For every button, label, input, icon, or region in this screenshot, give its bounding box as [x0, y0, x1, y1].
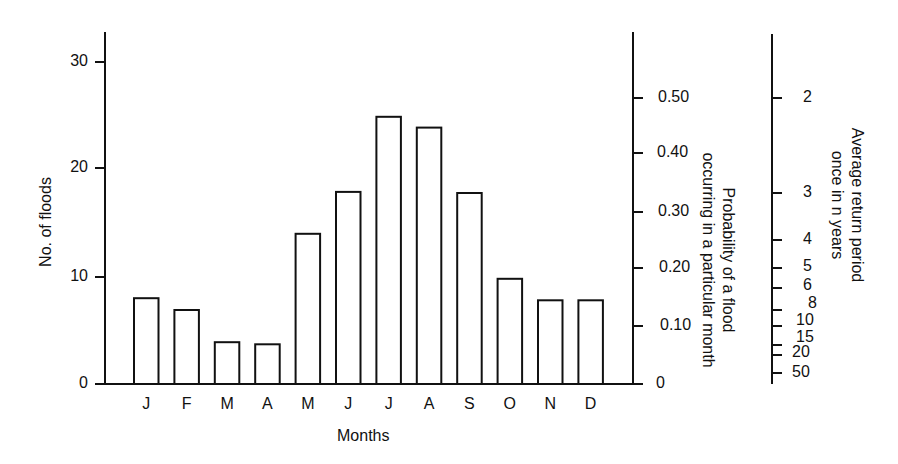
return-period-label-line2: once in n years — [827, 95, 847, 315]
bar-7 — [417, 128, 442, 384]
month-label: M — [293, 395, 323, 413]
prob-tick-0: 0 — [656, 374, 665, 392]
left-y-ticks — [95, 62, 105, 384]
month-label: M — [212, 395, 242, 413]
prob-tick-040: 0.40 — [657, 143, 688, 161]
bar-1 — [174, 310, 199, 384]
probability-label-line1: Probability of a flood — [718, 110, 738, 410]
y-tick-0: 0 — [48, 374, 88, 392]
bar-6 — [376, 117, 401, 384]
month-label: F — [172, 395, 202, 413]
rp-tick-8: 8 — [808, 295, 817, 311]
month-label: J — [333, 395, 363, 413]
rp-tick-10: 10 — [796, 312, 814, 328]
month-label: S — [454, 395, 484, 413]
bar-9 — [498, 279, 522, 384]
prob-tick-050: 0.50 — [658, 88, 689, 106]
rp-tick-5: 5 — [803, 258, 812, 274]
month-label: A — [252, 395, 282, 413]
probability-label-line2: occurring in a particular month — [698, 110, 718, 410]
bar-3 — [255, 344, 280, 384]
x-axis-label: Months — [337, 427, 389, 445]
y-axis-label: No. of floods — [37, 172, 55, 272]
probability-ticks — [633, 98, 643, 384]
month-label: D — [576, 395, 606, 413]
rp-tick-20: 20 — [792, 344, 810, 360]
return-period-axis-label: Average return period once in n years — [827, 95, 867, 315]
probability-axis-label: Probability of a flood occurring in a pa… — [698, 110, 738, 410]
rp-tick-6: 6 — [803, 277, 812, 293]
rp-tick-50: 50 — [792, 364, 810, 380]
bar-2 — [215, 342, 240, 384]
bar-4 — [296, 234, 321, 384]
rp-tick-4: 4 — [803, 230, 812, 248]
month-label: J — [131, 395, 161, 413]
rp-tick-3: 3 — [803, 183, 812, 201]
bar-5 — [336, 192, 361, 384]
bar-8 — [457, 193, 482, 384]
prob-tick-030: 0.30 — [658, 202, 689, 220]
y-tick-30: 30 — [48, 52, 88, 70]
month-label: A — [414, 395, 444, 413]
return-period-label-line1: Average return period — [847, 95, 867, 315]
bar-11 — [578, 300, 603, 384]
prob-tick-010: 0.10 — [660, 316, 691, 334]
prob-tick-020: 0.20 — [659, 258, 690, 276]
month-label: J — [374, 395, 404, 413]
return-period-ticks — [772, 98, 782, 373]
month-label: O — [495, 395, 525, 413]
bars — [134, 117, 603, 384]
bar-0 — [134, 298, 159, 384]
month-label: N — [535, 395, 565, 413]
rp-tick-2: 2 — [803, 88, 812, 106]
bar-10 — [538, 300, 563, 384]
